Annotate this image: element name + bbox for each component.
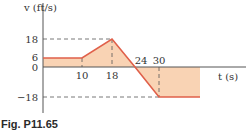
x-axis-label: t (s) bbox=[218, 71, 238, 82]
figure-caption: Fig. P11.65 bbox=[1, 118, 58, 130]
x-tick-10: 10 bbox=[76, 70, 89, 81]
negative-area bbox=[135, 67, 200, 97]
y-tick-0: 0 bbox=[32, 62, 38, 73]
x-tick-30: 30 bbox=[153, 55, 166, 66]
y-tick-neg18: −18 bbox=[17, 92, 38, 103]
y-axis-label: v (ft/s) bbox=[23, 2, 57, 13]
y-tick-18: 18 bbox=[25, 34, 38, 45]
x-tick-24: 24 bbox=[135, 55, 148, 66]
x-tick-18: 18 bbox=[106, 70, 119, 81]
